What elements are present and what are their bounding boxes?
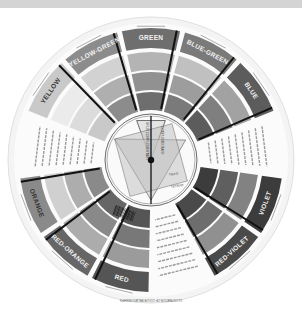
segment-ring xyxy=(127,52,175,72)
complementary-label: COMPLEMENTARY xyxy=(160,126,164,156)
segment-label: GREEN xyxy=(139,34,164,41)
bottom-title: ILLUSTRATION OF COLOR RELATIONSHIPS xyxy=(120,298,182,302)
split-complementary-label: SPLIT COMPLEMENTARY xyxy=(145,122,149,161)
color-wheel: GREENBLUE-GREENBLUEVIOLETRED-VIOLETREDRE… xyxy=(0,0,302,315)
